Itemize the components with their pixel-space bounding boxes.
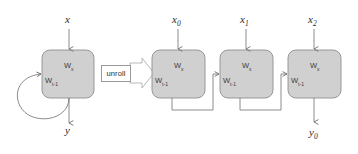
unrolled-recurrent-weight-label-2: Wt-1 — [291, 77, 304, 87]
unrolled-input-weight-label-1: Wx — [242, 62, 252, 72]
folded-output-label: y — [65, 125, 70, 136]
unrolled-recurrent-weight-label-1: Wt-1 — [223, 77, 236, 87]
unrolled-input-label-1: x1 — [240, 14, 249, 28]
unroll-label-box: unroll — [101, 65, 131, 82]
unrolled-input-label-0: x0 — [172, 14, 181, 28]
folded-recurrent-weight-label: Wt-1 — [45, 77, 58, 87]
unroll-label: unroll — [107, 70, 126, 78]
unrolled-recurrent-weight-subscript-1: t-1 — [230, 81, 236, 87]
unrolled-recurrent-weight-subscript-2: t-1 — [298, 81, 304, 87]
folded-cell-box — [42, 50, 94, 98]
unrolled-input-subscript-1: 1 — [245, 19, 249, 28]
unrolled-input-weight-label-2: Wx — [310, 62, 320, 72]
unrolled-cell-box-0 — [152, 50, 205, 98]
unrolled-output-label-2: y0 — [309, 127, 318, 141]
folded-input-weight-subscript: x — [71, 66, 74, 72]
unrolled-input-label-2: x2 — [308, 14, 317, 28]
unrolled-input-weight-subscript-2: x — [317, 66, 320, 72]
unrolled-input-weight-subscript-0: x — [181, 66, 184, 72]
folded-input-weight-label: Wx — [64, 62, 74, 72]
unrolled-recurrent-weight-subscript-0: t-1 — [162, 81, 168, 87]
unrolled-cell-box-2 — [288, 50, 341, 98]
unrolled-input-weight-label-0: Wx — [174, 62, 184, 72]
folded-recurrent-weight-subscript: t-1 — [52, 81, 58, 87]
unrolled-output-subscript-2: 0 — [314, 132, 318, 141]
unrolled-input-subscript-2: 2 — [313, 19, 317, 28]
unrolled-recurrent-weight-label-0: Wt-1 — [155, 77, 168, 87]
folded-input-label: x — [65, 14, 70, 25]
unrolled-input-subscript-0: 0 — [177, 19, 181, 28]
unrolled-cell-box-1 — [220, 50, 273, 98]
unroll-block-arrow-icon — [130, 58, 154, 88]
unrolled-input-weight-subscript-1: x — [249, 66, 252, 72]
rnn-unroll-diagram: x y Wx Wt-1 unroll x0 Wx Wt-1 x1 Wx Wt-1… — [0, 0, 358, 154]
